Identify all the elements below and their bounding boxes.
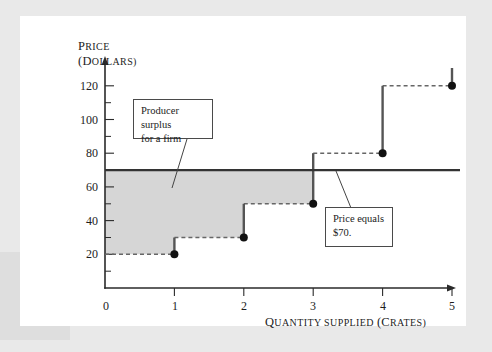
y-tick-label-20: 20 (70, 247, 98, 262)
producer-surplus-region (105, 170, 313, 254)
chart-screenshot: 120 100 80 60 40 20 0 1 2 3 4 5 PRICE (D… (0, 0, 492, 352)
x-tick-label-1: 1 (170, 299, 180, 314)
x-tick-label-2: 2 (239, 299, 249, 314)
y-axis-subtitle: (DOLLARS) (78, 51, 137, 69)
x-tick-label-0: 0 (101, 299, 111, 314)
producer-surplus-callout: Producer surplus for a firm (133, 99, 213, 139)
price-equals-callout-line2: $70. (333, 226, 386, 240)
y-axis-subtitle-lead: (D (78, 54, 92, 68)
price-equals-callout-line1: Price equals (333, 212, 386, 226)
data-point-q1 (170, 250, 178, 258)
figure-panel: 120 100 80 60 40 20 0 1 2 3 4 5 PRICE (D… (20, 16, 466, 326)
producer-surplus-callout-line2: for a firm (141, 132, 206, 146)
data-point-q5 (448, 82, 456, 90)
y-tick-label-100: 100 (70, 113, 98, 128)
data-point-q3 (309, 200, 317, 208)
data-point-q2 (240, 234, 248, 242)
y-tick-label-120: 120 (70, 79, 98, 94)
data-point-q4 (379, 149, 387, 157)
producer-surplus-callout-line1: Producer surplus (141, 104, 206, 132)
y-tick-label-80: 80 (70, 146, 98, 161)
y-axis-subtitle-rest: OLLARS) (92, 56, 137, 67)
y-tick-label-40: 40 (70, 214, 98, 229)
y-tick-label-60: 60 (70, 180, 98, 195)
price-equals-leader (336, 171, 351, 208)
x-tick-label-5: 5 (447, 299, 457, 314)
x-axis-title: QUANTITY SUPPLIED (CRATES) (265, 312, 426, 330)
x-axis-title-rest: UANTITY SUPPLIED (274, 317, 377, 328)
x-axis-title-lead2: (C (377, 315, 390, 329)
x-axis-title-rest2: RATES) (390, 317, 426, 328)
x-axis-title-lead: Q (265, 315, 274, 329)
price-equals-callout: Price equals $70. (325, 207, 393, 247)
